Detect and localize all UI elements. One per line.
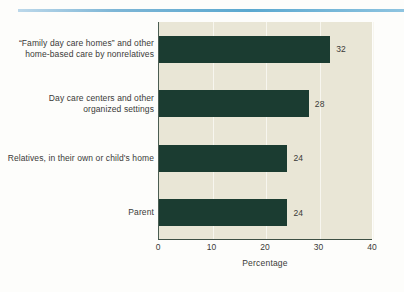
bar bbox=[159, 90, 309, 117]
x-tick-label-40: 40 bbox=[367, 242, 376, 252]
x-tick-label-20: 20 bbox=[260, 242, 269, 252]
category-axis-labels: “Family day care homes” and otherhome-ba… bbox=[4, 22, 154, 240]
x-axis-title: Percentage bbox=[158, 258, 372, 268]
x-tick-label-10: 10 bbox=[207, 242, 216, 252]
bar-row: 32 bbox=[159, 36, 372, 63]
category-label-line: “Family day care homes” and other bbox=[4, 38, 154, 49]
category-label-line: Day care centers and other bbox=[4, 93, 154, 104]
plot-area: 32282424 bbox=[158, 22, 372, 240]
x-tick-label-0: 0 bbox=[156, 242, 161, 252]
category-label-line: Parent bbox=[4, 207, 154, 218]
gridline-x-40 bbox=[373, 22, 374, 239]
category-label: Relatives, in their own or child's home bbox=[4, 153, 154, 164]
chart-figure: 32282424 010203040 Percentage “Family da… bbox=[0, 0, 404, 292]
category-label: Day care centers and otherorganized sett… bbox=[4, 93, 154, 115]
bar-row: 24 bbox=[159, 199, 372, 226]
bar-row: 24 bbox=[159, 145, 372, 172]
bar-value-label: 32 bbox=[336, 44, 346, 54]
x-tick-label-30: 30 bbox=[314, 242, 323, 252]
bar-value-label: 24 bbox=[293, 153, 303, 163]
category-label: Parent bbox=[4, 207, 154, 218]
category-label-line: home-based care by nonrelatives bbox=[4, 49, 154, 60]
bar-value-label: 24 bbox=[293, 208, 303, 218]
top-divider-rule bbox=[18, 9, 404, 12]
bar bbox=[159, 199, 287, 226]
bar-row: 28 bbox=[159, 90, 372, 117]
category-label-line: organized settings bbox=[4, 104, 154, 115]
x-axis-ticks: 010203040 bbox=[158, 242, 372, 256]
bar-value-label: 28 bbox=[315, 99, 325, 109]
category-label-line: Relatives, in their own or child's home bbox=[4, 153, 154, 164]
category-label: “Family day care homes” and otherhome-ba… bbox=[4, 38, 154, 60]
bar bbox=[159, 145, 287, 172]
bar bbox=[159, 36, 330, 63]
plot-inner: 32282424 bbox=[159, 22, 372, 239]
